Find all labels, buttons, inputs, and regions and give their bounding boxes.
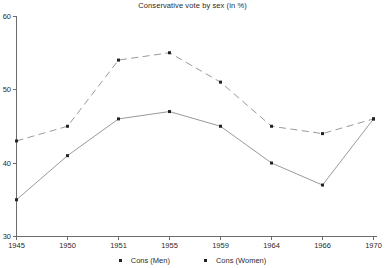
series-line-men [17, 112, 374, 200]
data-point-men [168, 110, 171, 113]
x-tick-label: 1950 [59, 241, 76, 250]
legend-marker-men-icon [119, 259, 122, 262]
chart-legend: Cons (Men) Cons (Women) [0, 255, 385, 266]
data-point-women [117, 59, 120, 62]
data-point-women [219, 81, 222, 84]
x-tick-label: 1951 [110, 241, 127, 250]
chart-canvas: 3040506019451950195119551959196419661970 [0, 0, 385, 252]
data-point-men [117, 117, 120, 120]
data-point-women [168, 51, 171, 54]
y-tick-label: 30 [3, 232, 11, 241]
legend-marker-women-icon [204, 259, 207, 262]
x-tick-label: 1970 [365, 241, 382, 250]
x-tick-label: 1959 [212, 241, 229, 250]
data-point-women [270, 125, 273, 128]
data-point-women [66, 125, 69, 128]
x-tick-label: 1945 [8, 241, 25, 250]
data-point-men [15, 198, 18, 201]
data-point-women [372, 117, 375, 120]
legend-label-men: Cons (Men) [131, 256, 170, 265]
data-point-men [66, 154, 69, 157]
y-tick-label: 50 [3, 85, 11, 94]
axes-lines [17, 16, 378, 237]
data-point-men [270, 162, 273, 165]
legend-item-women: Cons (Women) [204, 256, 266, 265]
legend-label-women: Cons (Women) [216, 256, 266, 265]
series-line-women [17, 53, 374, 141]
x-tick-label: 1955 [161, 241, 178, 250]
data-point-men [321, 184, 324, 187]
data-point-women [15, 139, 18, 142]
legend-item-men: Cons (Men) [119, 256, 170, 265]
data-point-men [219, 125, 222, 128]
x-tick-label: 1966 [314, 241, 331, 250]
y-tick-label: 40 [3, 159, 11, 168]
data-point-women [321, 132, 324, 135]
y-tick-label: 60 [3, 12, 11, 21]
chart-figure: Conservative vote by sex (in %) 30405060… [0, 0, 385, 268]
x-tick-label: 1964 [263, 241, 280, 250]
